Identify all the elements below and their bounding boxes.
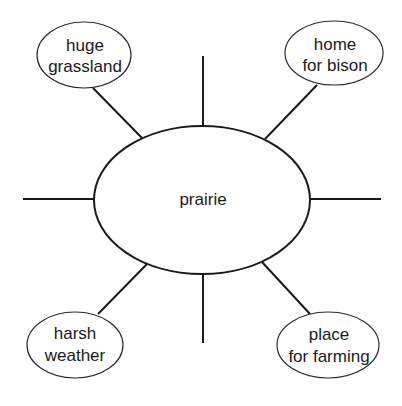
connector-bottom-right xyxy=(262,262,310,314)
node-bottom-left: harsh weather xyxy=(27,312,123,378)
node-bottom-left-line1: harsh xyxy=(54,324,97,343)
node-bottom-right-line2: for farming xyxy=(288,347,369,366)
node-top-left: huge grassland xyxy=(37,22,131,88)
node-bottom-right-line1: place xyxy=(309,325,350,344)
node-top-right-line1: home xyxy=(314,35,357,54)
center-label: prairie xyxy=(179,190,226,209)
node-top-right: home for bison xyxy=(285,21,383,85)
node-bottom-left-ellipse xyxy=(27,312,123,378)
node-bottom-right-ellipse xyxy=(277,312,379,378)
connector-bottom-left xyxy=(98,264,147,314)
connector-top-right xyxy=(265,85,317,139)
node-top-left-ellipse xyxy=(37,22,131,88)
node-bottom-right: place for farming xyxy=(277,312,379,378)
node-top-right-line2: for bison xyxy=(302,56,367,75)
node-top-left-line1: huge xyxy=(66,36,104,55)
center-node: prairie xyxy=(94,126,310,274)
connector-top-left xyxy=(93,88,143,139)
node-bottom-left-line2: weather xyxy=(44,346,106,365)
word-web-diagram: prairie huge grassland home for bison ha… xyxy=(0,0,402,406)
node-top-left-line2: grassland xyxy=(48,57,122,76)
